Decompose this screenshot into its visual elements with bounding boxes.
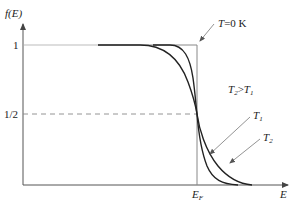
t1-label-sub: 1 <box>259 115 263 123</box>
y-axis-label-arg: (E) <box>8 7 22 19</box>
y-tick-one: 1 <box>13 40 19 51</box>
t0-annotation-arrow <box>200 24 214 41</box>
fermi-dirac-chart <box>0 0 296 204</box>
cmp-T1-sub: 1 <box>250 89 254 97</box>
x-tick-ef-sub: F <box>199 194 203 202</box>
temperature-comparison-label: T2>T1 <box>228 84 253 97</box>
x-tick-ef-main: E <box>192 188 199 200</box>
x-tick-ef: EF <box>192 189 203 202</box>
series-t2-curve <box>98 45 252 185</box>
series-t0-step <box>98 45 197 185</box>
t1-label: T1 <box>253 110 263 123</box>
t2-label-sub: 2 <box>269 137 273 145</box>
t1-annotation-arrow <box>210 117 250 154</box>
y-tick-half: 1/2 <box>4 109 18 120</box>
series-t1-curve <box>153 45 238 185</box>
t2-label: T2 <box>263 132 273 145</box>
t2-annotation-arrow <box>230 139 260 163</box>
t0-annotation-value: =0 K <box>224 17 246 29</box>
y-axis-label: f(E) <box>5 8 22 19</box>
t0-annotation: T=0 K <box>218 18 247 29</box>
x-axis-label: E <box>280 189 287 200</box>
